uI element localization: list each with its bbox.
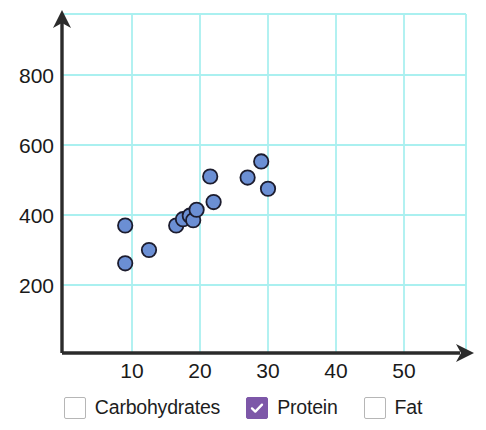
y-tick-label: 200 xyxy=(19,274,54,297)
data-point xyxy=(118,218,132,232)
data-point xyxy=(203,169,217,183)
legend-label: Protein xyxy=(277,398,337,418)
x-tick-label: 20 xyxy=(188,359,211,382)
legend-label: Fat xyxy=(395,398,423,418)
data-point xyxy=(206,195,220,209)
checkbox-protein[interactable] xyxy=(246,397,268,419)
legend: CarbohydratesProteinFat xyxy=(0,386,486,430)
checkmark-icon xyxy=(249,400,265,416)
y-tick-label: 600 xyxy=(19,134,54,157)
data-point xyxy=(142,243,156,257)
chart-canvas: 1020304050 200400600800 xyxy=(0,0,486,430)
scatter-plot-widget: 1020304050 200400600800 CarbohydratesPro… xyxy=(0,0,486,430)
y-tick-label: 400 xyxy=(19,204,54,227)
data-point xyxy=(118,256,132,270)
checkbox-carbohydrates[interactable] xyxy=(64,397,86,419)
x-tick-label: 40 xyxy=(324,359,347,382)
x-tick-labels: 1020304050 xyxy=(120,359,415,382)
checkbox-fat[interactable] xyxy=(364,397,386,419)
legend-label: Carbohydrates xyxy=(95,398,220,418)
legend-item-fat[interactable]: Fat xyxy=(364,397,423,419)
data-point xyxy=(240,170,254,184)
data-point xyxy=(189,203,203,217)
y-tick-labels: 200400600800 xyxy=(19,64,54,297)
data-point-series-protein xyxy=(118,154,275,270)
x-tick-label: 50 xyxy=(392,359,415,382)
legend-item-protein[interactable]: Protein xyxy=(246,397,337,419)
data-point xyxy=(261,182,275,196)
legend-item-carbohydrates[interactable]: Carbohydrates xyxy=(64,397,220,419)
y-tick-label: 800 xyxy=(19,64,54,87)
x-tick-label: 10 xyxy=(120,359,143,382)
data-point xyxy=(254,154,268,168)
x-tick-label: 30 xyxy=(256,359,279,382)
